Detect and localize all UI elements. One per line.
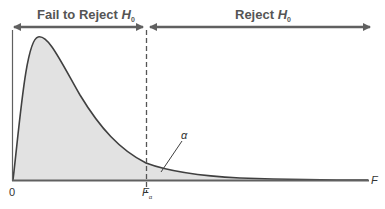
f-distribution-diagram: Fail to Reject H0 Reject H0 α 0 Fα F (0, 0, 385, 209)
reject-label: Reject H0 (235, 7, 291, 23)
origin-label: 0 (9, 186, 15, 198)
density-area-fill (13, 37, 368, 180)
alpha-leader-line (161, 141, 182, 172)
critical-value-label: Fα (142, 186, 153, 200)
x-axis-label: F (371, 174, 379, 186)
alpha-label: α (181, 129, 188, 141)
fail-to-reject-label: Fail to Reject H0 (37, 7, 135, 23)
